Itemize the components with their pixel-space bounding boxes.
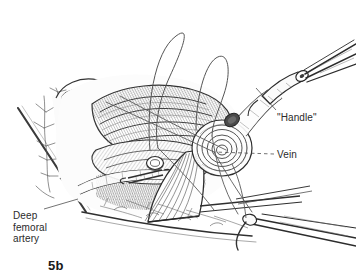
label-deep-femoral-artery: Deep femoral artery bbox=[13, 210, 47, 245]
surgical-illustration bbox=[0, 0, 356, 280]
figure-caption: 5b bbox=[48, 258, 64, 273]
vessel-ring-center bbox=[147, 157, 164, 171]
label-handle: "Handle" bbox=[277, 112, 317, 124]
figure-container: "Handle" Vein Deep femoral artery 5b bbox=[0, 0, 356, 280]
label-vein: Vein bbox=[277, 149, 297, 161]
